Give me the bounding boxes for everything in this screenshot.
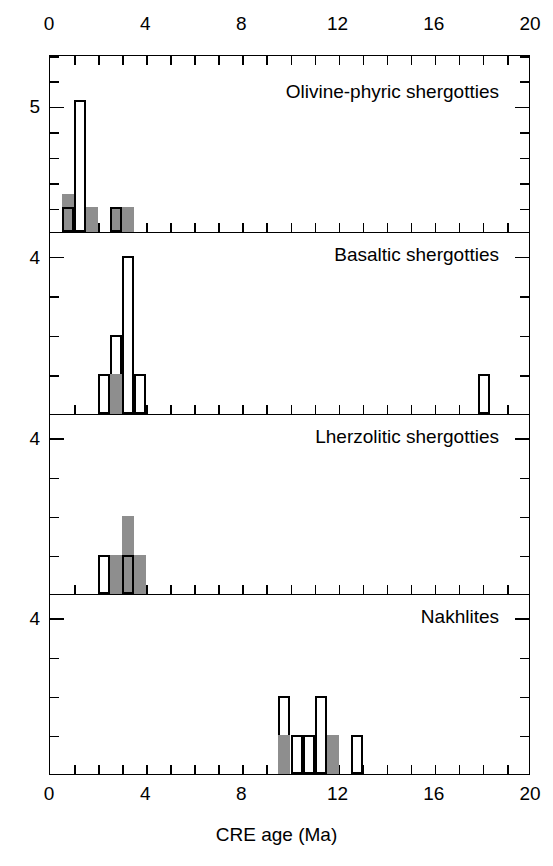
histogram-bar xyxy=(110,207,122,232)
x-axis-tick xyxy=(387,405,389,414)
y-axis-tick xyxy=(50,56,59,58)
panel-caption: Lherzolitic shergotties xyxy=(315,427,499,446)
bottom-axis-tick-label: 0 xyxy=(44,784,55,803)
y-axis-tick xyxy=(50,478,59,480)
x-axis-tick xyxy=(218,585,220,594)
x-axis-tick xyxy=(146,765,148,774)
x-axis-tick xyxy=(459,223,461,232)
panel-lherzolitic-shergotties: Lherzolitic shergotties xyxy=(49,415,530,595)
x-axis-tick xyxy=(363,765,365,774)
histogram-bar xyxy=(86,207,98,232)
panel-olivine-phyric-shergotties: Olivine-phyric shergotties xyxy=(49,55,530,233)
x-axis-tick xyxy=(242,405,244,414)
x-axis-tick xyxy=(98,56,100,65)
y-axis-tick xyxy=(50,556,59,558)
histogram-bar xyxy=(278,735,290,774)
y-axis-tick xyxy=(50,697,59,699)
histogram-bar xyxy=(315,696,327,774)
x-axis-tick xyxy=(74,56,76,65)
x-axis-tick xyxy=(483,765,485,774)
x-axis-tick xyxy=(339,585,341,594)
x-axis-tick xyxy=(98,223,100,232)
y-axis-tick xyxy=(50,336,59,338)
x-axis-tick xyxy=(242,56,244,65)
x-axis-tick xyxy=(483,56,485,65)
y-axis-tick xyxy=(520,478,529,480)
y-axis-tick xyxy=(520,56,529,58)
x-axis-tick xyxy=(363,56,365,65)
y-axis-tick xyxy=(520,183,529,185)
y-axis-tick xyxy=(50,296,59,298)
panel-basaltic-shergotties: Basaltic shergotties xyxy=(49,233,530,415)
x-axis-tick xyxy=(507,405,509,414)
x-axis-tick xyxy=(483,223,485,232)
x-axis-tick xyxy=(242,223,244,232)
y-axis-tick xyxy=(50,183,59,185)
top-axis-tick-label: 16 xyxy=(423,14,444,33)
y-axis-tick xyxy=(520,158,529,160)
histogram-bar xyxy=(122,256,134,414)
histogram-bar xyxy=(478,374,490,414)
y-axis-tick xyxy=(50,618,64,620)
x-axis-tick xyxy=(291,585,293,594)
y-axis-tick xyxy=(520,81,529,83)
bottom-axis-tick-labels: 048121620 xyxy=(0,784,553,808)
histogram-bar xyxy=(327,735,339,774)
panel-caption: Olivine-phyric shergotties xyxy=(286,82,499,101)
x-axis-tick xyxy=(74,405,76,414)
y-axis-tick xyxy=(50,81,59,83)
x-axis-tick xyxy=(387,56,389,65)
x-axis-tick xyxy=(194,56,196,65)
x-axis-tick xyxy=(483,585,485,594)
x-axis-tick xyxy=(507,223,509,232)
x-axis-tick xyxy=(122,765,124,774)
x-axis-tick xyxy=(411,405,413,414)
y-axis-tick xyxy=(515,257,529,259)
x-axis-tick xyxy=(266,56,268,65)
x-axis-tick xyxy=(146,405,148,414)
x-axis-tick xyxy=(507,56,509,65)
y-axis-tick xyxy=(520,132,529,134)
x-axis-title: CRE age (Ma) xyxy=(0,824,553,846)
panel-caption: Nakhlites xyxy=(421,607,499,626)
x-axis-tick xyxy=(74,765,76,774)
x-axis-tick xyxy=(387,223,389,232)
histogram-bar xyxy=(110,555,122,594)
top-axis-tick-label: 20 xyxy=(519,14,540,33)
y-axis-tick xyxy=(50,658,59,660)
x-axis-tick xyxy=(459,765,461,774)
y-axis-tick xyxy=(520,736,529,738)
x-axis-tick xyxy=(146,585,148,594)
bottom-axis-tick-label: 4 xyxy=(140,784,151,803)
bottom-axis-tick-label: 20 xyxy=(519,784,540,803)
y-axis-tick xyxy=(50,736,59,738)
y-axis-tick xyxy=(50,375,59,377)
figure-root: 048121620 Olivine-phyric shergotties Bas… xyxy=(0,0,553,866)
y-axis-tick xyxy=(50,257,64,259)
x-axis-tick xyxy=(435,56,437,65)
x-axis-tick xyxy=(242,765,244,774)
x-axis-tick xyxy=(291,56,293,65)
x-axis-tick xyxy=(266,765,268,774)
panel-caption: Basaltic shergotties xyxy=(334,245,499,264)
top-axis-tick-labels: 048121620 xyxy=(0,14,553,36)
y-axis-tick xyxy=(50,438,64,440)
y-axis-tick xyxy=(520,697,529,699)
y-axis-tick xyxy=(520,658,529,660)
x-axis-tick xyxy=(435,585,437,594)
x-axis-tick xyxy=(339,56,341,65)
x-axis-tick xyxy=(315,585,317,594)
y-axis-tick xyxy=(515,438,529,440)
x-axis-tick xyxy=(387,585,389,594)
x-axis-tick xyxy=(459,585,461,594)
histogram-bar xyxy=(62,207,74,232)
x-axis-tick xyxy=(170,765,172,774)
x-axis-tick xyxy=(218,56,220,65)
y-axis-tick xyxy=(50,209,59,211)
histogram-bar xyxy=(110,374,122,414)
x-axis-tick xyxy=(507,765,509,774)
x-axis-tick xyxy=(170,405,172,414)
histogram-bar xyxy=(98,555,110,594)
histogram-bar xyxy=(122,555,134,594)
x-axis-tick xyxy=(459,405,461,414)
